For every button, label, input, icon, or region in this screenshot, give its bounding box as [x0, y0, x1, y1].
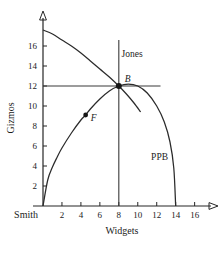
point-b-label: B: [125, 74, 131, 84]
y-tick-label-10: 10: [28, 101, 38, 111]
point-f-label: F: [90, 113, 97, 123]
x-tick-label-12: 12: [152, 210, 161, 220]
curve-jones: [43, 30, 141, 112]
x-tick-label-2: 2: [60, 210, 65, 220]
y-axis-title: Gizmos: [5, 102, 16, 133]
annotations-group: BF: [83, 74, 131, 123]
x-tick-label-4: 4: [79, 210, 84, 220]
curve-label-jones: Jones: [122, 49, 143, 59]
x-axis-title: Widgets: [106, 225, 139, 236]
economics-ppb-chart: 246810121416 246810121416 BF PPBJones Wi…: [0, 0, 223, 255]
curves-group: [43, 30, 176, 206]
y-tick-label-16: 16: [28, 41, 38, 51]
point-f-marker: [83, 113, 88, 118]
x-tick-label-6: 6: [98, 210, 103, 220]
y-tick-label-4: 4: [33, 161, 38, 171]
y-tick-label-2: 2: [33, 181, 38, 191]
point-b-marker: [116, 83, 122, 89]
x-tick-label-16: 16: [190, 210, 200, 220]
guide-lines-group: [43, 40, 161, 206]
y-tick-label-6: 6: [33, 141, 38, 151]
curve-ppb: [43, 84, 176, 206]
y-tick-label-8: 8: [33, 121, 38, 131]
x-ticks-group: 246810121416: [60, 202, 200, 220]
origin-label: Smith: [14, 209, 38, 220]
curve-label-ppb: PPB: [151, 152, 168, 162]
curve-labels-group: PPBJones: [122, 49, 168, 162]
y-tick-label-12: 12: [28, 81, 37, 91]
x-tick-label-14: 14: [171, 210, 181, 220]
axes-group: [33, 11, 218, 209]
y-tick-label-14: 14: [28, 61, 38, 71]
y-ticks-group: 246810121416: [28, 41, 47, 191]
x-tick-label-10: 10: [133, 210, 143, 220]
chart-container: 246810121416 246810121416 BF PPBJones Wi…: [0, 0, 223, 255]
x-tick-label-8: 8: [117, 210, 122, 220]
